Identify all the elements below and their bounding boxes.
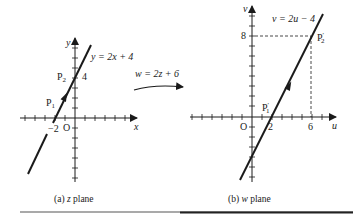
- mapping-arrow-icon: [134, 86, 183, 90]
- y-axis-label: y: [65, 37, 71, 48]
- tick-label-2: 2: [268, 121, 273, 132]
- tick-label-4: 4: [82, 71, 87, 82]
- tick-label-minus-2: −2: [48, 123, 59, 134]
- line-equation-label: v = 2u − 4: [272, 13, 315, 24]
- mapping-equation: w = 2z + 6: [135, 68, 179, 79]
- u-axis-label: u: [332, 120, 337, 131]
- line-y-2x-plus-4: [53, 45, 91, 123]
- tick-label-8: 8: [241, 30, 246, 41]
- point-p2-prime-label: P′2: [317, 31, 325, 45]
- line-equation-label: y = 2x + 4: [90, 51, 133, 62]
- caption-z-plane: (a) z plane: [54, 194, 94, 205]
- x-axis-label: x: [133, 121, 139, 132]
- mapping-arrow-group: w = 2z + 6: [134, 68, 183, 90]
- v-axis-label: v: [243, 3, 248, 14]
- z-plane-panel: y x O −2 4 y = 2x + 4 P2 P1: [20, 37, 139, 182]
- caption-w-plane: (b) w plane: [228, 194, 271, 205]
- tick-label-6: 6: [308, 121, 313, 132]
- point-p2-label: P2: [57, 71, 67, 84]
- origin-label: O: [240, 121, 247, 132]
- w-plane-panel: v u O 2 6 8 v = 2u − 4 P′2 P′1: [190, 3, 337, 182]
- point-p1-label: P1: [46, 97, 56, 110]
- origin-label: O: [63, 122, 70, 133]
- conformal-mapping-figure: y x O −2 4 y = 2x + 4 P2 P1 w = 2z + 6: [0, 0, 353, 218]
- point-p1-prime-label: P′1: [262, 101, 270, 115]
- line-y-2x-plus-4-lower: [28, 134, 47, 174]
